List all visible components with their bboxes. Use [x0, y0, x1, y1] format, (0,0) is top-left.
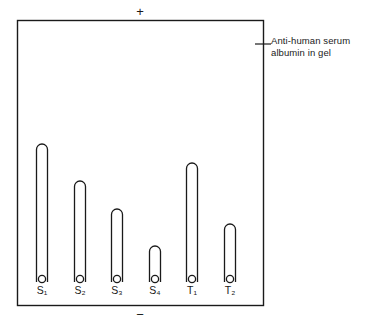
rocket-s1: S₁ [37, 144, 48, 296]
sample-label-s3: S₃ [111, 284, 122, 296]
sample-label-s4: S₄ [149, 284, 160, 296]
sample-label-s1: S₁ [37, 284, 48, 296]
precipitin-arc [75, 181, 86, 282]
annotation-line-1: Anti-human serum [271, 35, 350, 46]
precipitin-arc [37, 144, 48, 282]
sample-well [226, 275, 233, 282]
annotation-line-2: albumin in gel [271, 47, 377, 59]
sample-label-t2: T₂ [225, 284, 236, 296]
sample-label-t1: T₁ [187, 284, 197, 296]
precipitin-arc [225, 224, 236, 282]
sample-well [151, 275, 158, 282]
rocket-s4: S₄ [149, 246, 160, 296]
sample-well [38, 275, 45, 282]
precipitin-arc [112, 209, 123, 282]
anode-plus-sign: + [136, 4, 144, 19]
rocket-s2: S₂ [74, 181, 85, 296]
sample-label-s2: S₂ [74, 284, 85, 296]
sample-well [188, 275, 195, 282]
gel-annotation-label: Anti-human serum albumin in gel [271, 35, 377, 58]
precipitin-arc [187, 163, 198, 282]
rocket-immunoelectrophoresis-figure: + S₁S₂S₃S₄T₁T₂ − Anti-human serum albumi… [0, 0, 377, 325]
sample-well [113, 275, 120, 282]
rocket-t1: T₁ [187, 163, 198, 296]
rocket-t2: T₂ [225, 224, 236, 296]
cathode-minus-sign: − [136, 307, 144, 322]
sample-well [76, 275, 83, 282]
